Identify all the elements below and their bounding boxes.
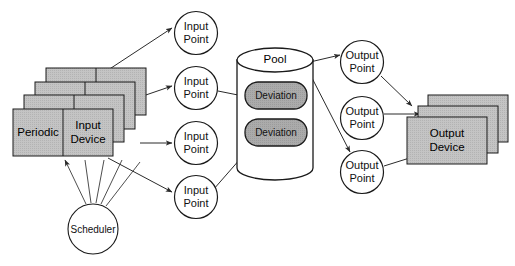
scheduler-node[interactable]: Scheduler [68,204,118,254]
input-point-1-label-line2: Point [183,33,208,45]
output-point-3-label-line1: Output [345,159,378,171]
pool-item-deviation-2[interactable]: Deviation [245,119,307,146]
input-point-2-label-line2: Point [183,88,208,100]
output-point-2[interactable]: Output Point [341,97,384,140]
pool-label: Pool [263,53,286,65]
scheduler-to-device-connectors [65,160,140,206]
input-point-4[interactable]: Input Point [175,176,218,219]
scheduler-label: Scheduler [70,224,116,235]
output-device-stack[interactable]: Output Device [407,95,508,164]
pool-cylinder[interactable]: Pool Deviation Deviation [237,48,313,180]
input-device-label-line1: Input [75,119,101,131]
output-device-label-line1: Output [430,127,465,139]
input-point-4-label-line1: Input [184,184,208,196]
output-point-1-label-line1: Output [345,49,378,61]
input-device-stack[interactable]: Periodic Input Device [13,68,146,156]
input-point-3-label-line2: Point [183,143,208,155]
input-point-2-label-line1: Input [184,75,208,87]
input-point-3[interactable]: Input Point [175,122,218,165]
diagram-canvas: Periodic Input Device Scheduler Input Po… [0,0,515,266]
input-device-stack-front-card[interactable]: Periodic Input Device [13,109,113,156]
output-device-label-line2: Device [429,141,464,153]
output-point-1[interactable]: Output Point [341,41,384,84]
input-point-2[interactable]: Input Point [175,67,218,110]
output-device-front-card[interactable]: Output Device [407,117,487,164]
output-point-3[interactable]: Output Point [341,151,384,194]
diagram-svg: Periodic Input Device Scheduler Input Po… [0,0,515,266]
input-point-1[interactable]: Input Point [175,12,218,55]
input-point-3-label-line1: Input [184,130,208,142]
periodic-label: Periodic [17,126,59,138]
output-point-3-label-line2: Point [349,172,374,184]
output-point-2-label-line2: Point [349,118,374,130]
input-device-label-line2: Device [70,133,105,145]
output-point-1-label-line2: Point [349,62,374,74]
pool-item-deviation-1[interactable]: Deviation [245,82,307,109]
output-point-2-label-line1: Output [345,105,378,117]
deviation-2-label: Deviation [255,127,297,138]
input-point-1-label-line1: Input [184,20,208,32]
input-point-4-label-line2: Point [183,197,208,209]
deviation-1-label: Deviation [255,90,297,101]
